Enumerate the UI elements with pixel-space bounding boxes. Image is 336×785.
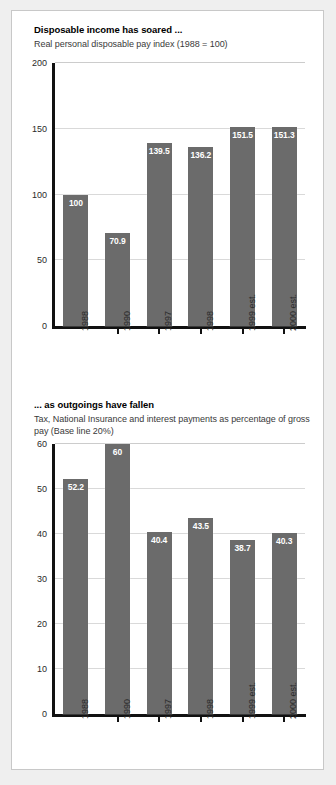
y-axis-tick-label: 50: [37, 255, 47, 265]
chart-disposable-income: Disposable income has soared ... Real pe…: [12, 11, 323, 393]
x-label-slot: 1988: [55, 329, 97, 387]
y-axis-tick-label: 10: [37, 664, 47, 674]
x-label-slot: 2000 est.: [263, 329, 305, 387]
x-axis-category-label: 2000 est.: [288, 682, 298, 719]
bar[interactable]: 43.5: [188, 518, 213, 714]
y-axis-tick-label: 20: [37, 619, 47, 629]
bar-slot: 100: [55, 63, 97, 326]
x-axis-category-label: 1990: [122, 311, 132, 331]
bar-value-label: 52.2: [63, 482, 88, 492]
y-axis-tick-label: 100: [32, 190, 47, 200]
bar-value-label: 151.5: [230, 130, 255, 140]
x-axis-category-label: 1999 est.: [247, 294, 257, 331]
bar-value-label: 43.5: [188, 521, 213, 531]
bar-value-label: 60: [105, 447, 130, 457]
chart-1-plot-area: 05010015020010070.9139.5136.2151.5151.3: [55, 63, 305, 326]
chart-2-subtitle: Tax, National Insurance and interest pay…: [34, 413, 315, 438]
x-label-slot: 1997: [138, 717, 180, 775]
bar-value-label: 100: [63, 198, 88, 208]
x-axis-category-label: 1997: [163, 311, 173, 331]
x-axis-category-label: 1988: [80, 311, 90, 331]
chart-outgoings: ... as outgoings have fallen Tax, Nation…: [12, 386, 323, 771]
bar-slot: 139.5: [138, 63, 180, 326]
y-axis-tick-label: 0: [42, 709, 47, 719]
bar[interactable]: 52.2: [63, 479, 88, 714]
bar-slot: 151.3: [263, 63, 305, 326]
bar-value-label: 38.7: [230, 543, 255, 553]
x-label-slot: 1997: [138, 329, 180, 387]
x-axis-category-label: 2000 est.: [288, 294, 298, 331]
chart-1-x-labels: 19881990199719981999 est.2000 est.: [55, 329, 305, 387]
bar[interactable]: 40.4: [147, 532, 172, 714]
bar-value-label: 139.5: [147, 146, 172, 156]
x-axis-category-label: 1997: [163, 699, 173, 719]
x-label-slot: 1999 est.: [222, 329, 264, 387]
bar-slot: 52.2: [55, 444, 97, 714]
bar[interactable]: 60: [105, 444, 130, 714]
bar-slot: 43.5: [180, 444, 222, 714]
x-label-slot: 1999 est.: [222, 717, 264, 775]
bar-slot: 40.4: [138, 444, 180, 714]
y-axis-tick-label: 40: [37, 529, 47, 539]
y-axis-tick-label: 30: [37, 574, 47, 584]
y-axis-tick-label: 0: [42, 321, 47, 331]
x-label-slot: 1990: [97, 717, 139, 775]
bar-series: 10070.9139.5136.2151.5151.3: [55, 63, 305, 326]
bar-series: 52.26040.443.538.740.3: [55, 444, 305, 714]
y-axis-tick-label: 60: [37, 439, 47, 449]
y-axis-tick-label: 200: [32, 58, 47, 68]
chart-2-plot-area: 010203040506052.26040.443.538.740.3: [55, 444, 305, 714]
y-axis-tick-label: 50: [37, 484, 47, 494]
bar-value-label: 136.2: [188, 150, 213, 160]
chart-1-subtitle: Real personal disposable pay index (1988…: [34, 38, 315, 51]
bar-value-label: 40.4: [147, 535, 172, 545]
bar[interactable]: 139.5: [147, 143, 172, 326]
bar-slot: 151.5: [222, 63, 264, 326]
x-label-slot: 1988: [55, 717, 97, 775]
bar-slot: 70.9: [97, 63, 139, 326]
bar[interactable]: 100: [63, 195, 88, 327]
y-axis-tick-label: 150: [32, 124, 47, 134]
bar-value-label: 40.3: [272, 536, 297, 546]
x-axis-category-label: 1998: [205, 311, 215, 331]
chart-2-header: ... as outgoings have fallen Tax, Nation…: [34, 398, 315, 438]
bar-slot: 40.3: [263, 444, 305, 714]
bar-value-label: 70.9: [105, 236, 130, 246]
x-axis-category-label: 1988: [80, 699, 90, 719]
x-label-slot: 1998: [180, 717, 222, 775]
bar[interactable]: 136.2: [188, 147, 213, 326]
x-axis-category-label: 1998: [205, 699, 215, 719]
x-label-slot: 1998: [180, 329, 222, 387]
x-axis-category-label: 1990: [122, 699, 132, 719]
x-label-slot: 2000 est.: [263, 717, 305, 775]
chart-1-title: Disposable income has soared ...: [34, 23, 315, 36]
chart-2-x-labels: 19881990199719981999 est.2000 est.: [55, 717, 305, 775]
bar-slot: 38.7: [222, 444, 264, 714]
bar-slot: 136.2: [180, 63, 222, 326]
chart-2-title: ... as outgoings have fallen: [34, 398, 315, 411]
bar-value-label: 151.3: [272, 130, 297, 140]
x-label-slot: 1990: [97, 329, 139, 387]
figure-panel: Disposable income has soared ... Real pe…: [11, 10, 324, 770]
x-axis-category-label: 1999 est.: [247, 682, 257, 719]
chart-1-header: Disposable income has soared ... Real pe…: [34, 23, 315, 50]
bar-slot: 60: [97, 444, 139, 714]
